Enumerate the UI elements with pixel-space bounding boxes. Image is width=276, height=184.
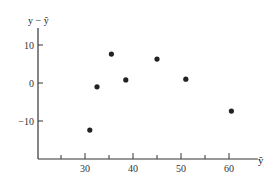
residual-plot: 100−1030405060 y − ŷ ŷ — [0, 0, 276, 184]
data-point — [123, 77, 128, 82]
data-point — [229, 109, 234, 114]
data-point — [109, 52, 114, 57]
x-tick-label: 60 — [224, 163, 234, 174]
data-point — [183, 77, 188, 82]
y-tick-label: 10 — [24, 40, 34, 51]
y-axis-label: y − ŷ — [28, 16, 49, 26]
x-tick-label: 30 — [80, 163, 90, 174]
data-point — [94, 84, 99, 89]
data-point — [154, 56, 159, 61]
data-point — [87, 128, 92, 133]
y-tick-label: 0 — [29, 78, 34, 89]
x-axis-label: ŷ — [258, 155, 264, 165]
x-tick-label: 50 — [176, 163, 186, 174]
x-tick-label: 40 — [128, 163, 138, 174]
y-tick-label: −10 — [18, 116, 34, 127]
plot-area: 100−1030405060 — [0, 0, 276, 184]
